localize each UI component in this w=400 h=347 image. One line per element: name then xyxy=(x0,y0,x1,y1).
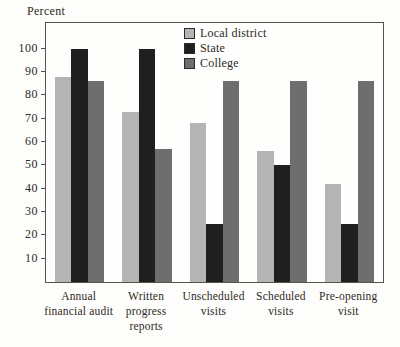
legend-item: State xyxy=(184,41,266,56)
bar xyxy=(223,81,240,282)
y-tick-label: 100 xyxy=(8,40,38,55)
bar xyxy=(139,49,156,282)
x-category-label: Annual financial audit xyxy=(44,289,114,319)
y-tick-label: 20 xyxy=(8,227,38,242)
bar xyxy=(55,77,72,282)
legend-swatch xyxy=(184,43,195,54)
bar-chart-figure: Percent Local districtStateCollege 10203… xyxy=(0,0,400,347)
y-tick-mark xyxy=(41,48,45,49)
y-tick-mark xyxy=(41,71,45,72)
y-tick-mark xyxy=(41,188,45,189)
y-tick-label: 70 xyxy=(8,110,38,125)
y-tick-label: 40 xyxy=(8,180,38,195)
x-category-label: Written progress reports xyxy=(111,289,181,334)
bar xyxy=(257,151,274,282)
y-tick-mark xyxy=(41,211,45,212)
bar xyxy=(358,81,375,282)
legend-label: College xyxy=(200,56,239,71)
y-tick-label: 10 xyxy=(8,250,38,265)
bar xyxy=(71,49,88,282)
legend: Local districtStateCollege xyxy=(184,26,266,71)
y-tick-mark xyxy=(41,258,45,259)
y-tick-label: 60 xyxy=(8,134,38,149)
y-tick-mark xyxy=(41,94,45,95)
legend-item: Local district xyxy=(184,26,266,41)
y-tick-mark xyxy=(41,118,45,119)
legend-item: College xyxy=(184,56,266,71)
y-tick-label: 80 xyxy=(8,87,38,102)
bar xyxy=(325,184,342,282)
legend-swatch xyxy=(184,58,195,69)
y-tick-label: 90 xyxy=(8,64,38,79)
bar xyxy=(190,123,207,282)
y-tick-mark xyxy=(41,234,45,235)
legend-label: State xyxy=(200,41,225,56)
plot-area: Local districtStateCollege xyxy=(45,22,384,283)
bar xyxy=(274,165,291,282)
bar xyxy=(341,224,358,282)
x-category-label: Scheduled visits xyxy=(246,289,316,319)
y-tick-mark xyxy=(41,164,45,165)
x-category-label: Pre-opening visit xyxy=(313,289,383,319)
bar xyxy=(88,81,105,282)
y-tick-mark xyxy=(41,141,45,142)
bar xyxy=(290,81,307,282)
y-tick-label: 50 xyxy=(8,157,38,172)
bar xyxy=(155,149,172,282)
legend-label: Local district xyxy=(200,26,266,41)
x-category-label: Unscheduled visits xyxy=(179,289,249,319)
legend-swatch xyxy=(184,28,195,39)
bar xyxy=(122,112,139,282)
y-tick-label: 30 xyxy=(8,204,38,219)
bar xyxy=(206,224,223,282)
y-axis-title: Percent xyxy=(27,4,65,19)
